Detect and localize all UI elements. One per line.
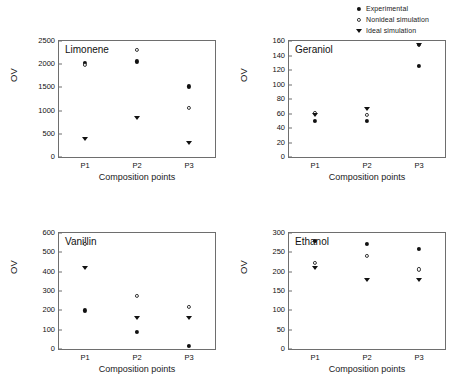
y-axis-tick-label: 100 (272, 81, 289, 89)
y-axis-tick-mark (289, 310, 292, 311)
x-axis-tick-label: P1 (80, 349, 89, 362)
y-axis-tick-mark (289, 142, 292, 143)
filled-circle-icon (352, 4, 366, 14)
y-axis-tick-label: 150 (272, 287, 289, 295)
x-axis-tick-label: P2 (132, 157, 141, 170)
y-axis-tick-mark (289, 41, 292, 42)
y-axis-tick-mark (289, 99, 292, 100)
y-axis-tick-mark (289, 291, 292, 292)
panel-vanillin: OV Vanillin 0100200300400500600P1P2P3 Co… (6, 226, 226, 391)
x-axis-label: Composition points (58, 172, 216, 183)
figure-panel-grid: Experimental Nonideal simulation Ideal s… (0, 0, 461, 392)
y-axis-tick-label: 0 (281, 345, 289, 353)
y-axis-tick-mark (289, 271, 292, 272)
y-axis-tick-mark (59, 310, 62, 311)
y-axis-tick-mark (289, 70, 292, 71)
plot-area: Ethanol 050100150200250300P1P2P3 (288, 232, 446, 350)
open-circle-icon (352, 15, 366, 25)
panel-title: Ethanol (295, 236, 329, 248)
y-axis-tick-mark (289, 233, 292, 234)
x-axis-tick-label: P1 (80, 157, 89, 170)
y-axis-tick-mark (59, 233, 62, 234)
x-axis-tick-label: P2 (362, 349, 371, 362)
y-axis-tick-mark (289, 157, 292, 158)
y-axis-tick-label: 0 (51, 153, 59, 161)
plot-area: Geraniol 020406080100120140160P1P2P3 (288, 40, 446, 158)
y-axis-tick-label: 50 (277, 326, 289, 334)
y-axis-label: OV (238, 260, 249, 274)
y-axis-tick-mark (289, 128, 292, 129)
y-axis-tick-label: 1500 (38, 83, 59, 91)
panel-title: Limonene (65, 44, 109, 56)
y-axis-tick-mark (289, 329, 292, 330)
y-axis-tick-label: 600 (42, 229, 59, 237)
legend-label: Nonideal simulation (366, 16, 429, 24)
y-axis-tick-mark (59, 349, 62, 350)
y-axis-tick-label: 500 (42, 248, 59, 256)
y-axis-tick-label: 100 (42, 326, 59, 334)
x-axis-label: Composition points (288, 364, 446, 375)
y-axis-tick-label: 80 (277, 95, 289, 103)
y-axis-tick-label: 200 (42, 306, 59, 314)
legend-item-experimental: Experimental (352, 4, 460, 14)
x-axis-label: Composition points (288, 172, 446, 183)
y-axis-tick-mark (59, 133, 62, 134)
y-axis-tick-mark (59, 252, 62, 253)
y-axis-tick-label: 400 (42, 268, 59, 276)
plot-area: Vanillin 0100200300400500600P1P2P3 (58, 232, 216, 350)
y-axis-tick-mark (289, 113, 292, 114)
plot-area: Limonene 05001000150020002500P1P2P3 (58, 40, 216, 158)
y-axis-tick-label: 500 (42, 130, 59, 138)
panel-geraniol: OV Geraniol 020406080100120140160P1P2P3 … (236, 34, 456, 199)
y-axis-tick-mark (59, 329, 62, 330)
y-axis-tick-mark (289, 252, 292, 253)
y-axis-tick-mark (59, 271, 62, 272)
x-axis-tick-label: P3 (184, 157, 193, 170)
legend-label: Experimental (366, 5, 408, 13)
y-axis-tick-label: 140 (272, 52, 289, 60)
panel-title: Vanillin (65, 236, 97, 248)
y-axis-tick-label: 300 (42, 287, 59, 295)
y-axis-tick-label: 60 (277, 110, 289, 118)
y-axis-tick-mark (289, 55, 292, 56)
y-axis-tick-label: 100 (272, 306, 289, 314)
y-axis-tick-mark (59, 291, 62, 292)
y-axis-tick-label: 0 (51, 345, 59, 353)
y-axis-tick-mark (59, 41, 62, 42)
y-axis-tick-label: 1000 (38, 107, 59, 115)
x-axis-tick-label: P1 (310, 349, 319, 362)
x-axis-tick-label: P2 (132, 349, 141, 362)
y-axis-tick-label: 160 (272, 37, 289, 45)
y-axis-tick-label: 0 (281, 153, 289, 161)
y-axis-tick-mark (59, 87, 62, 88)
y-axis-label: OV (8, 260, 19, 274)
x-axis-tick-label: P1 (310, 157, 319, 170)
y-axis-tick-label: 2500 (38, 37, 59, 45)
x-axis-tick-label: P3 (414, 349, 423, 362)
y-axis-tick-label: 40 (277, 124, 289, 132)
legend: Experimental Nonideal simulation Ideal s… (352, 4, 460, 37)
y-axis-tick-label: 300 (272, 229, 289, 237)
y-axis-tick-mark (59, 110, 62, 111)
y-axis-label: OV (238, 68, 249, 82)
y-axis-label: OV (8, 68, 19, 82)
y-axis-tick-mark (289, 349, 292, 350)
y-axis-tick-mark (59, 64, 62, 65)
y-axis-tick-label: 250 (272, 248, 289, 256)
x-axis-label: Composition points (58, 364, 216, 375)
y-axis-tick-label: 20 (277, 139, 289, 147)
panel-title: Geraniol (295, 44, 333, 56)
x-axis-tick-label: P3 (184, 349, 193, 362)
y-axis-tick-mark (289, 84, 292, 85)
y-axis-tick-label: 200 (272, 268, 289, 276)
legend-item-nonideal-simulation: Nonideal simulation (352, 15, 460, 25)
y-axis-tick-mark (59, 157, 62, 158)
y-axis-tick-label: 2000 (38, 60, 59, 68)
panel-ethanol: OV Ethanol 050100150200250300P1P2P3 Comp… (236, 226, 456, 391)
x-axis-tick-label: P2 (362, 157, 371, 170)
x-axis-tick-label: P3 (414, 157, 423, 170)
y-axis-tick-label: 120 (272, 66, 289, 74)
panel-limonene: OV Limonene 05001000150020002500P1P2P3 C… (6, 34, 226, 199)
